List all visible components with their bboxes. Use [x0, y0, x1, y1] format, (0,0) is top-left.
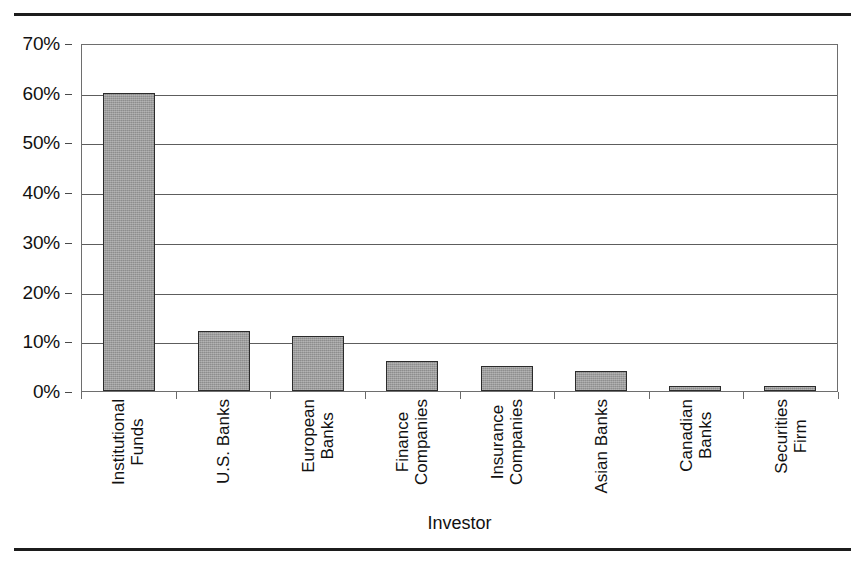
y-tick-label: 70%	[23, 33, 60, 55]
y-tick-label: 40%	[23, 182, 60, 204]
y-tick-mark	[65, 342, 72, 343]
bar[interactable]	[764, 386, 816, 391]
bar-slot	[554, 45, 648, 391]
category-slot: SecuritiesFirm	[743, 399, 838, 511]
y-tick-label: 30%	[23, 232, 60, 254]
bar-slot	[176, 45, 270, 391]
x-tick-mark	[460, 392, 461, 399]
bar-slot	[460, 45, 554, 391]
x-category-label: CanadianBanks	[677, 399, 715, 472]
y-axis: 0%10%20%30%40%50%60%70%	[0, 44, 72, 392]
x-category-label: SecuritiesFirm	[772, 399, 810, 474]
x-category-label: U.S. Banks	[213, 399, 232, 484]
y-tick-mark	[65, 193, 72, 194]
figure-container: 0%10%20%30%40%50%60%70% InstitutionalFun…	[0, 0, 865, 570]
x-tick-mark	[743, 392, 744, 399]
category-slot: InsuranceCompanies	[460, 399, 555, 511]
x-tick-mark	[838, 392, 839, 399]
y-tick-label: 10%	[23, 331, 60, 353]
top-horizontal-rule	[14, 13, 851, 16]
bar[interactable]	[386, 361, 438, 391]
category-slot: InstitutionalFunds	[81, 399, 176, 511]
y-tick-label: 50%	[23, 132, 60, 154]
bars-group	[82, 45, 837, 391]
y-tick-mark	[65, 243, 72, 244]
x-category-label: FinanceCompanies	[393, 399, 431, 485]
x-tick-mark	[554, 392, 555, 399]
x-axis-tick-marks	[81, 392, 838, 399]
y-tick-mark	[65, 392, 72, 393]
bar-slot	[271, 45, 365, 391]
bar[interactable]	[669, 386, 721, 391]
x-category-label: EuropeanBanks	[299, 399, 337, 473]
y-tick-mark	[65, 293, 72, 294]
y-tick-label: 60%	[23, 83, 60, 105]
x-tick-mark	[81, 392, 82, 399]
x-tick-mark	[176, 392, 177, 399]
x-category-label: InstitutionalFunds	[109, 399, 147, 485]
plot-area	[81, 44, 838, 392]
bar[interactable]	[575, 371, 627, 391]
bar[interactable]	[103, 93, 155, 391]
category-slot: CanadianBanks	[649, 399, 744, 511]
x-axis-category-labels: InstitutionalFundsU.S. BanksEuropeanBank…	[81, 399, 838, 511]
bar-slot	[743, 45, 837, 391]
x-category-label: InsuranceCompanies	[488, 399, 526, 485]
bar-slot	[365, 45, 459, 391]
category-slot: Asian Banks	[554, 399, 649, 511]
x-category-label: Asian Banks	[592, 399, 611, 494]
bar[interactable]	[292, 336, 344, 391]
y-tick-mark	[65, 44, 72, 45]
category-slot: EuropeanBanks	[270, 399, 365, 511]
x-tick-mark	[649, 392, 650, 399]
bar-slot	[82, 45, 176, 391]
x-tick-mark	[365, 392, 366, 399]
x-axis-title: Investor	[81, 513, 838, 534]
y-tick-label: 0%	[33, 381, 60, 403]
y-tick-label: 20%	[23, 282, 60, 304]
y-tick-mark	[65, 94, 72, 95]
x-tick-mark	[270, 392, 271, 399]
y-tick-mark	[65, 143, 72, 144]
bottom-horizontal-rule	[14, 548, 851, 551]
category-slot: FinanceCompanies	[365, 399, 460, 511]
category-slot: U.S. Banks	[176, 399, 271, 511]
bar-slot	[648, 45, 742, 391]
bar[interactable]	[198, 331, 250, 391]
bar[interactable]	[481, 366, 533, 391]
